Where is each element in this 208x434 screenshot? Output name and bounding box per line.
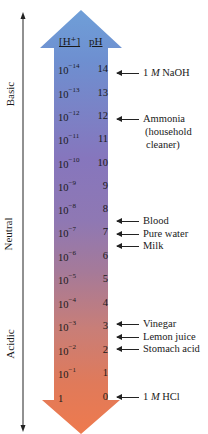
scale-row: 10−99: [54, 180, 110, 196]
pointer-arrow-icon: [117, 337, 139, 338]
axis-up-arrow-icon: [21, 12, 26, 19]
scale-row: 10−55: [54, 273, 110, 289]
scale-row: 10−77: [54, 226, 110, 242]
pointer-arrow-icon: [117, 397, 139, 398]
scale-row: 10: [54, 391, 110, 407]
scale-row: 10−1010: [54, 157, 110, 173]
scale-row: 10−1313: [54, 87, 110, 103]
pointer-arrow-icon: [117, 234, 139, 235]
scale-row: 10−66: [54, 250, 110, 266]
scale-row: 10−33: [54, 320, 110, 336]
pointer-arrow-icon: [117, 349, 139, 350]
pointer-arrow-icon: [117, 221, 139, 222]
axis-label-neutral: Neutral: [2, 218, 14, 251]
axis-down-arrow-icon: [21, 425, 26, 432]
axis-label-basic: Basic: [4, 82, 16, 106]
scale-row: 10−11: [54, 367, 110, 383]
header-h-ion: [H⁺]: [59, 35, 80, 48]
pointer-arrow-icon: [117, 324, 139, 325]
scale-row: 10−1111: [54, 133, 110, 149]
pointer-arrow-icon: [117, 119, 139, 120]
header-ph: pH: [89, 35, 102, 47]
scale-row: 10−1212: [54, 110, 110, 126]
scale-row: 10−22: [54, 344, 110, 360]
scale-row: 10−88: [54, 203, 110, 219]
pointer-arrow-icon: [117, 246, 139, 247]
pointer-arrow-icon: [117, 73, 139, 74]
scale-row: 10−44: [54, 297, 110, 313]
axis-label-acidic: Acidic: [4, 329, 16, 358]
scale-row: 10−1414: [54, 63, 110, 79]
